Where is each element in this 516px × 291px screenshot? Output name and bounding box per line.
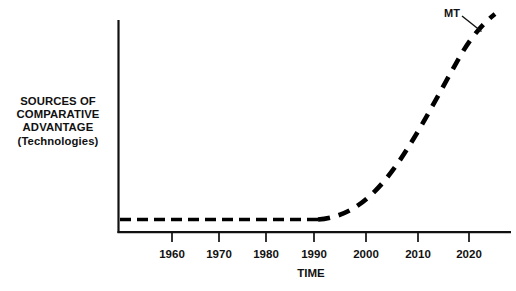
x-axis-title: TIME <box>297 267 325 279</box>
x-axis-tick-label-1970: 1970 <box>206 248 232 260</box>
x-axis-tick-label-1980: 1980 <box>253 248 279 260</box>
x-axis-tick-label-1960: 1960 <box>159 248 185 260</box>
chart-container: SOURCES OF COMPARATIVE ADVANTAGE (Techno… <box>0 0 516 291</box>
annotation-label-mt: MT <box>444 7 460 19</box>
x-axis-tick-label-1990: 1990 <box>301 248 327 260</box>
x-axis-tick-label-2020: 2020 <box>456 248 482 260</box>
chart-plot-area: 1960 1970 1980 1990 2000 2010 2020 TIME … <box>0 0 516 291</box>
series-line-growth-curve <box>318 14 495 220</box>
x-axis-tick-labels: 1960 1970 1980 1990 2000 2010 2020 <box>159 248 482 260</box>
x-axis-ticks <box>172 232 469 242</box>
annotation-leader-line <box>462 16 482 32</box>
x-axis-tick-label-2000: 2000 <box>353 248 379 260</box>
x-axis-tick-label-2010: 2010 <box>405 248 431 260</box>
